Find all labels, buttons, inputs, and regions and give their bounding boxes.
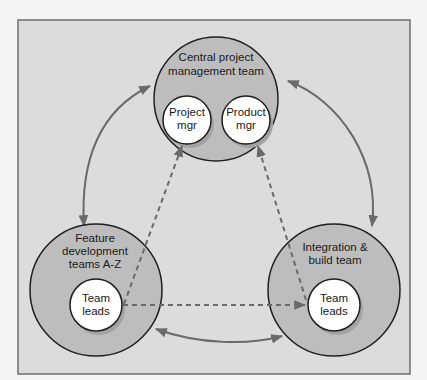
org-diagram: Central project management team Project … bbox=[0, 0, 427, 380]
product-mgr-label-2: mgr bbox=[236, 119, 256, 131]
feature-leads-label-2: leads bbox=[82, 305, 110, 317]
integration-leads-label-2: leads bbox=[320, 305, 348, 317]
feature-title-2: development bbox=[62, 245, 129, 257]
feature-leads-label-1: Team bbox=[82, 292, 110, 304]
feature-title-1: Feature bbox=[75, 232, 115, 244]
integration-title-2: build team bbox=[308, 254, 361, 266]
feature-title-3: teams A-Z bbox=[69, 258, 121, 270]
product-mgr-label-1: Product bbox=[226, 106, 266, 118]
integration-leads-label-1: Team bbox=[320, 292, 348, 304]
integration-title-1: Integration & bbox=[302, 241, 368, 253]
project-mgr-label-2: mgr bbox=[177, 119, 197, 131]
project-mgr-label-1: Project bbox=[169, 106, 206, 118]
central-title-2: management team bbox=[168, 65, 264, 77]
central-title-1: Central project bbox=[179, 51, 255, 63]
